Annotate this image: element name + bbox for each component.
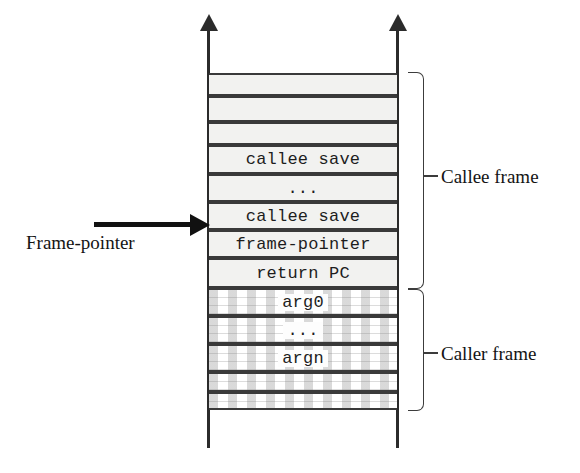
stack-cell-callee-save-ellipsis: ... [209, 174, 397, 202]
frame-pointer-arrow-line [94, 222, 192, 227]
stack-cell-callee-pad-2 [209, 96, 397, 122]
stack-cell-label: callee save [246, 151, 360, 168]
stack-cell-caller-pad-1 [209, 372, 397, 392]
stack-cell-callee-pad-1 [209, 73, 397, 96]
stack-cell-label: ... [283, 322, 322, 339]
callee-frame-label: Callee frame [441, 166, 539, 188]
stack-cell-label: frame-pointer [235, 236, 370, 253]
stack-cell-label: callee save [246, 208, 360, 225]
stack-cell-callee-save-bottom: callee save [209, 202, 397, 230]
frame-pointer-arrow-icon [190, 214, 210, 236]
frame-pointer-label: Frame-pointer [26, 232, 135, 254]
stack-cell-arg-ellipsis: ... [209, 316, 397, 344]
stack-frame-diagram: callee save ... callee save frame-pointe… [0, 0, 580, 473]
stack-cell-label: ... [287, 180, 318, 197]
stack-cell-caller-pad-2 [209, 392, 397, 410]
stack-cell-arg0: arg0 [209, 288, 397, 316]
stack-cell-callee-pad-3 [209, 122, 397, 145]
caller-frame-bracket-tick [423, 352, 438, 354]
stack-cell-label: argn [278, 350, 328, 367]
caller-frame-label: Caller frame [441, 343, 536, 365]
callee-frame-bracket [408, 72, 424, 289]
stack-cell-return-pc: return PC [209, 258, 397, 288]
stack-cell-frame-pointer: frame-pointer [209, 230, 397, 258]
callee-frame-bracket-tick [423, 175, 438, 177]
stack-cell-label: arg0 [278, 294, 328, 311]
stack-cell-argn: argn [209, 344, 397, 372]
stack-cell-label: return PC [256, 265, 350, 282]
caller-frame-bracket [408, 289, 424, 411]
stack-cell-callee-save-top: callee save [209, 145, 397, 174]
stack-rail-right-arrow-icon [389, 14, 407, 31]
stack-rail-left-arrow-icon [200, 14, 218, 31]
